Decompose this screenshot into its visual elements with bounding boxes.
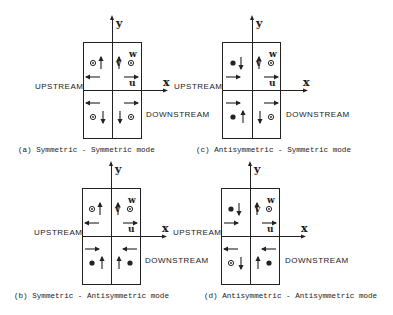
- quadrant-ur: [259, 57, 278, 77]
- quadrant-ur: [257, 203, 276, 223]
- w-into-plane-icon: [228, 206, 233, 211]
- quadrant-ll: [226, 103, 243, 123]
- w-into-plane-icon: [89, 260, 94, 265]
- w-into-plane-icon: [266, 260, 271, 265]
- w-into-plane-icon: [230, 114, 235, 119]
- quadrant-ll: [86, 103, 103, 123]
- quadrant-ul: [85, 203, 100, 223]
- quadrant-lr: [119, 249, 137, 269]
- axis-arrowheads: [109, 15, 308, 239]
- vector-glyph-layer: [0, 0, 393, 315]
- quadrant-ul: [226, 57, 241, 77]
- quadrant-ul: [224, 203, 239, 223]
- quadrant-ll: [85, 249, 102, 269]
- quadrant-lr: [120, 103, 138, 123]
- quadrant-ur: [119, 57, 138, 77]
- quadrant-ur: [118, 203, 137, 223]
- w-into-plane-icon: [127, 260, 132, 265]
- w-into-plane-icon: [230, 60, 235, 65]
- quadrant-ll: [224, 249, 241, 269]
- quadrant-ul: [86, 57, 101, 77]
- quadrant-lr: [260, 103, 278, 123]
- quadrant-lr: [258, 249, 276, 269]
